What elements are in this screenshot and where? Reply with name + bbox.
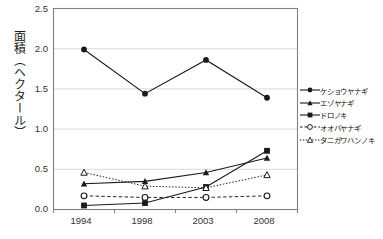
legend-key-filled-square-icon bbox=[300, 109, 320, 121]
data-point bbox=[203, 57, 209, 63]
legend-item-2[interactable]: ドロノキ bbox=[300, 109, 383, 121]
data-point bbox=[264, 148, 270, 154]
legend-item-3[interactable]: オオバヤナギ bbox=[300, 121, 383, 133]
legend-label-0: ケショウヤナギ bbox=[320, 85, 368, 96]
series-0 bbox=[81, 47, 270, 101]
series-4 bbox=[81, 169, 270, 190]
legend-label-3: オオバヤナギ bbox=[320, 122, 361, 133]
data-point bbox=[81, 203, 87, 209]
data-point bbox=[81, 47, 87, 53]
data-point bbox=[264, 95, 270, 101]
series-line bbox=[84, 151, 267, 206]
data-point bbox=[264, 155, 270, 161]
legend-key-open-circle-icon bbox=[300, 121, 320, 133]
legend-item-0[interactable]: ケショウヤナギ bbox=[300, 84, 383, 96]
legend-label-4: タニガワハンノキ bbox=[320, 134, 374, 145]
data-point bbox=[203, 195, 209, 201]
data-point bbox=[81, 193, 87, 199]
chart-legend: ケショウヤナギ エゾヤナギ ドロノキ オオバヤナギ タニガワハンノキ bbox=[300, 84, 383, 146]
data-point bbox=[142, 195, 148, 201]
legend-item-4[interactable]: タニガワハンノキ bbox=[300, 134, 383, 146]
chart-figure: 面積（ヘクタール） 0.0 0.5 1.0 1.5 2.0 2.5 1994 1… bbox=[0, 0, 383, 239]
series-line bbox=[84, 158, 267, 184]
legend-label-1: エゾヤナギ bbox=[320, 97, 354, 108]
legend-key-filled-circle-icon bbox=[300, 84, 320, 96]
data-point bbox=[264, 172, 270, 178]
data-point bbox=[142, 91, 148, 97]
legend-item-1[interactable]: エゾヤナギ bbox=[300, 96, 383, 108]
series-line bbox=[84, 173, 267, 188]
legend-label-2: ドロノキ bbox=[320, 109, 347, 120]
data-point bbox=[264, 193, 270, 199]
series-3 bbox=[81, 193, 270, 200]
series-line bbox=[84, 196, 267, 198]
data-point bbox=[81, 169, 87, 175]
series-line bbox=[84, 50, 267, 98]
legend-key-open-triangle-icon bbox=[300, 134, 320, 146]
legend-key-filled-triangle-icon bbox=[300, 97, 320, 109]
data-point bbox=[142, 200, 148, 206]
series-1 bbox=[81, 155, 270, 187]
plot-border bbox=[54, 9, 298, 210]
